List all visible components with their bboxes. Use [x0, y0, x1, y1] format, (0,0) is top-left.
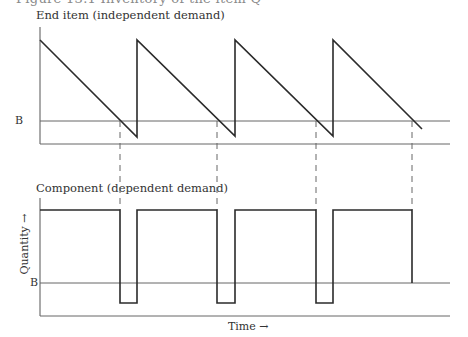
end-item-sawtooth	[40, 40, 422, 137]
component-step	[40, 210, 412, 303]
reorder-connectors	[120, 121, 412, 210]
inventory-diagram	[0, 0, 468, 337]
bottom-panel	[40, 198, 450, 316]
top-panel	[40, 27, 450, 144]
